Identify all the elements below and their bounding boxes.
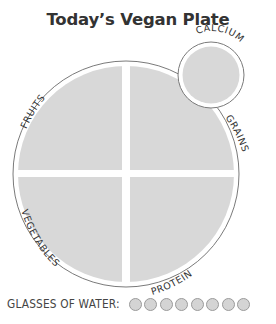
- vegan-plate-diagram: FRUITS GRAINS VEGETABLES PROTEIN CALCIUM: [0, 0, 276, 324]
- water-glasses: [129, 298, 251, 311]
- water-tracker: GLASSES OF WATER:: [7, 294, 250, 314]
- section-calcium: [183, 47, 240, 104]
- water-glass-5[interactable]: [191, 298, 204, 311]
- water-label: GLASSES OF WATER:: [7, 297, 120, 311]
- label-calcium: CALCIUM: [194, 22, 246, 44]
- water-glass-3[interactable]: [160, 298, 173, 311]
- water-glass-2[interactable]: [144, 298, 157, 311]
- water-glass-1[interactable]: [129, 298, 142, 311]
- water-glass-8[interactable]: [237, 298, 250, 311]
- water-glass-4[interactable]: [175, 298, 188, 311]
- water-glass-6[interactable]: [206, 298, 219, 311]
- water-glass-7[interactable]: [222, 298, 235, 311]
